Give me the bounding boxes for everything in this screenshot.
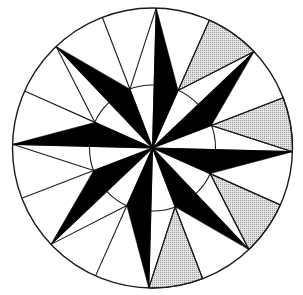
- shaded-sector: [210, 174, 280, 250]
- shaded-sector: [211, 98, 292, 152]
- intermediate-ray: [25, 91, 95, 122]
- intermediate-ray: [96, 206, 127, 276]
- shaded-sector: [149, 207, 203, 288]
- shaded-sector: [178, 20, 254, 90]
- spike-edge-line: [130, 8, 156, 89]
- compass-rose: [0, 0, 303, 295]
- spike-edge-line: [13, 144, 94, 170]
